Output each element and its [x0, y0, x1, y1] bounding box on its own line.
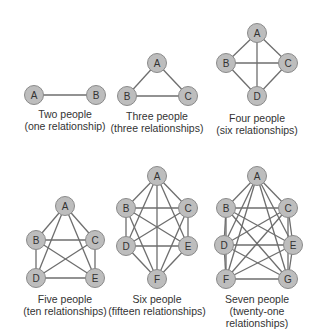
person-label: G	[284, 274, 292, 285]
person-label: B	[123, 203, 130, 214]
person-label: A	[31, 90, 38, 101]
person-node: B	[27, 231, 46, 250]
person-node: D	[215, 236, 234, 255]
caption-subtitle: (six relationships)	[197, 124, 317, 136]
person-label: E	[185, 241, 192, 252]
person-node: F	[217, 270, 236, 289]
person-node: E	[284, 236, 303, 255]
graph-caption: Four people(six relationships)	[197, 112, 317, 136]
person-label: E	[290, 240, 297, 251]
person-label: C	[184, 203, 191, 214]
person-node: C	[279, 199, 298, 218]
person-node: B	[118, 87, 137, 106]
person-label: B	[33, 235, 40, 246]
person-label: C	[91, 235, 98, 246]
person-node: E	[86, 269, 105, 288]
person-label: F	[223, 274, 229, 285]
person-label: D	[32, 273, 39, 284]
person-node: D	[248, 87, 267, 106]
person-node: B	[217, 199, 236, 218]
person-node: A	[25, 86, 44, 105]
person-label: B	[223, 58, 230, 69]
graph-seven: ABCDEFG	[215, 167, 303, 289]
person-node: B	[117, 199, 136, 218]
graph-six: ABCDEF	[117, 167, 198, 289]
relationship-diagram: ABABCABCDABCDEABCDEFABCDEFG	[0, 0, 327, 330]
person-label: A	[62, 201, 69, 212]
person-label: F	[154, 274, 160, 285]
person-node: C	[179, 199, 198, 218]
person-label: A	[154, 58, 161, 69]
person-node: E	[179, 237, 198, 256]
person-label: C	[184, 91, 191, 102]
person-label: C	[284, 58, 291, 69]
person-label: C	[284, 203, 291, 214]
person-label: A	[254, 171, 261, 182]
person-node: D	[117, 237, 136, 256]
person-label: D	[253, 91, 260, 102]
person-node: A	[148, 167, 167, 186]
graph-two: AB	[25, 86, 106, 105]
person-label: B	[223, 203, 230, 214]
edges	[126, 176, 188, 279]
caption-subtitle: (twenty-one relationships)	[197, 305, 317, 329]
person-node: A	[148, 54, 167, 73]
caption-title: Four people	[197, 112, 317, 124]
edges	[224, 176, 293, 279]
person-node: G	[279, 270, 298, 289]
person-label: E	[92, 273, 99, 284]
person-node: F	[148, 270, 167, 289]
person-node: A	[248, 24, 267, 43]
person-node: B	[217, 54, 236, 73]
graph-four: ABCD	[217, 24, 298, 106]
graph-three: ABC	[118, 54, 198, 106]
person-label: D	[122, 241, 129, 252]
graph-caption: Seven people(twenty-one relationships)	[197, 293, 317, 329]
graph-five: ABCDE	[27, 197, 105, 288]
person-node: C	[179, 87, 198, 106]
person-node: C	[279, 54, 298, 73]
person-node: A	[56, 197, 75, 216]
person-node: D	[27, 269, 46, 288]
person-label: B	[124, 91, 131, 102]
person-node: A	[248, 167, 267, 186]
person-node: C	[86, 231, 105, 250]
caption-title: Seven people	[197, 293, 317, 305]
person-node: B	[87, 86, 106, 105]
person-label: A	[254, 28, 261, 39]
person-label: B	[93, 90, 100, 101]
person-label: D	[220, 240, 227, 251]
person-label: A	[154, 171, 161, 182]
